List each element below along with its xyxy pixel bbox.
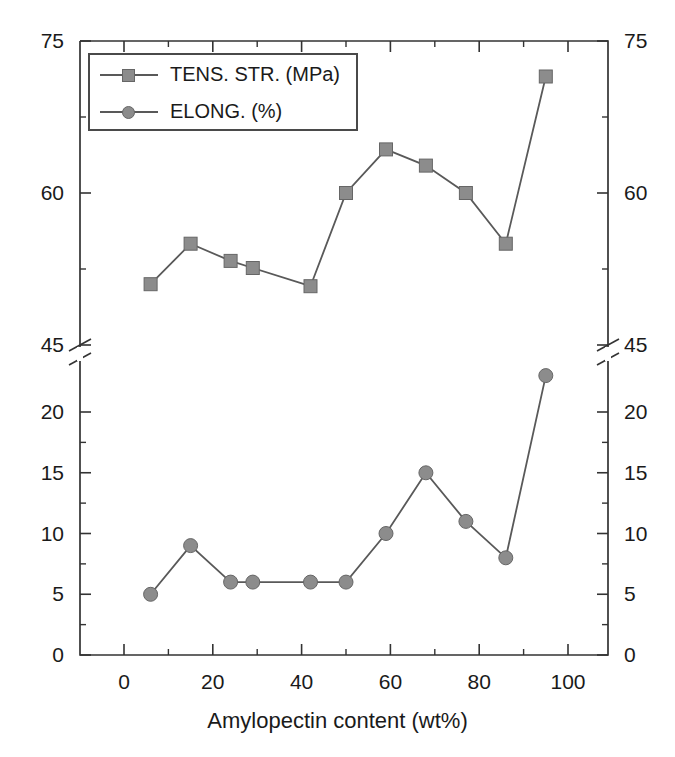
axis-break-marks <box>69 339 619 365</box>
x-tick-label: 80 <box>449 671 509 692</box>
legend-entry-tensile-strength: TENS. STR. (MPa) <box>90 55 356 94</box>
x-tick-label: 60 <box>360 671 420 692</box>
x-tick-label: 40 <box>272 671 332 692</box>
y-tick-label-right: 20 <box>624 401 675 422</box>
y-tick-label-right: 75 <box>624 30 675 51</box>
x-tick-label: 20 <box>183 671 243 692</box>
y-tick-label-right: 45 <box>624 334 675 355</box>
y-tick-label-right: 5 <box>624 583 675 604</box>
legend-label-elongation: ELONG. (%) <box>170 100 282 123</box>
y-tick-label-left: 15 <box>2 462 64 483</box>
axis-frame <box>80 41 608 655</box>
legend-entry-elongation: ELONG. (%) <box>90 92 356 131</box>
x-tick-label: 0 <box>94 671 154 692</box>
chart-figure: 0204060801004545606075750055101015152020… <box>0 0 675 757</box>
series-layer <box>144 70 553 601</box>
y-tick-label-left: 0 <box>2 644 64 665</box>
y-tick-label-right: 0 <box>624 644 675 665</box>
y-tick-label-right: 10 <box>624 523 675 544</box>
y-tick-label-left: 45 <box>2 334 64 355</box>
y-tick-label-right: 60 <box>624 182 675 203</box>
y-tick-label-right: 15 <box>624 462 675 483</box>
legend: TENS. STR. (MPa) ELONG. (%) <box>88 53 358 131</box>
y-tick-label-left: 20 <box>2 401 64 422</box>
y-tick-label-left: 75 <box>2 30 64 51</box>
axis-ticks <box>80 41 608 655</box>
y-tick-label-left: 60 <box>2 182 64 203</box>
y-tick-label-left: 10 <box>2 523 64 544</box>
legend-label-tensile-strength: TENS. STR. (MPa) <box>170 63 340 86</box>
x-axis-title: Amylopectin content (wt%) <box>0 708 675 734</box>
legend-marker-square <box>100 65 158 85</box>
y-tick-label-left: 5 <box>2 583 64 604</box>
legend-marker-circle <box>100 102 158 122</box>
x-tick-label: 100 <box>538 671 598 692</box>
